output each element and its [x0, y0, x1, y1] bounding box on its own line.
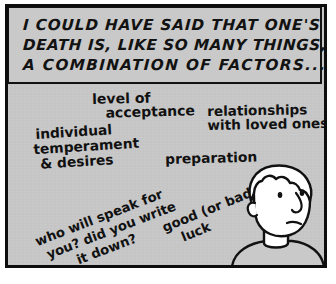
caption-box: I COULD HAVE SAID THAT ONE'S DEATH IS, L… — [7, 6, 322, 84]
note-temperament-line-3: & desires — [40, 151, 141, 172]
caption-line-3: A COMBINATION OF FACTORS... — [22, 55, 314, 75]
comic-panel-page: I COULD HAVE SAID THAT ONE'S DEATH IS, L… — [0, 0, 336, 284]
character-figure — [224, 163, 327, 267]
caption-line-1: I COULD HAVE SAID THAT ONE'S — [22, 15, 314, 35]
caption-line-2: DEATH IS, LIKE SO MANY THINGS, — [22, 35, 314, 55]
handwritten-note-temperament: individual temperament & desires — [35, 121, 140, 172]
note-relationships-line-2: with loved ones — [207, 115, 327, 132]
handwritten-note-relationships: relationships with loved ones — [207, 102, 327, 132]
eye-left — [278, 192, 283, 198]
comic-panel: I COULD HAVE SAID THAT ONE'S DEATH IS, L… — [5, 4, 327, 268]
eye-right — [300, 190, 305, 196]
note-acceptance-line-2: acceptance — [105, 103, 195, 120]
handwritten-note-acceptance: level of acceptance — [92, 89, 195, 120]
